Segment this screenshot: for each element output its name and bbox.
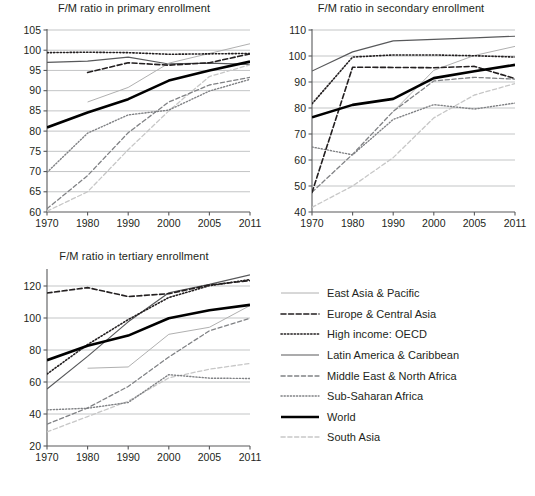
legend-swatch-middle_east_north_africa bbox=[280, 370, 320, 382]
series-line-middle_east_north_africa bbox=[47, 77, 250, 208]
plot-secondary: 4050607080901001101970198019902000200520… bbox=[267, 0, 535, 248]
legend-label-world: World bbox=[327, 411, 356, 423]
legend-item-south_asia[interactable]: South Asia bbox=[280, 427, 530, 448]
svg-text:1990: 1990 bbox=[382, 217, 406, 229]
series-line-sub_saharan_africa bbox=[47, 375, 250, 410]
plot-primary: 6065707580859095100105197019801990200020… bbox=[0, 0, 268, 248]
legend-item-east_asia_pacific[interactable]: East Asia & Pacific bbox=[280, 283, 530, 304]
series-line-east_asia_pacific bbox=[88, 44, 250, 102]
legend-item-middle_east_north_africa[interactable]: Middle East & North Africa bbox=[280, 365, 530, 386]
svg-text:120: 120 bbox=[23, 280, 41, 292]
svg-text:2000: 2000 bbox=[157, 217, 181, 229]
series-legend: East Asia & PacificEurope & Central Asia… bbox=[280, 283, 530, 453]
legend-label-high_income_oecd: High income: OECD bbox=[327, 328, 427, 340]
svg-text:2011: 2011 bbox=[504, 217, 527, 229]
svg-text:80: 80 bbox=[29, 125, 41, 137]
svg-text:95: 95 bbox=[29, 64, 41, 76]
chart-panel-secondary: F/M ratio in secondary enrollment 405060… bbox=[267, 0, 535, 248]
svg-text:60: 60 bbox=[294, 154, 306, 166]
chart-panel-tertiary: F/M ratio in tertiary enrollment 2040608… bbox=[0, 248, 268, 496]
series-line-europe_central_asia bbox=[312, 66, 515, 192]
series-line-latin_america_caribbean bbox=[47, 275, 250, 389]
svg-text:1980: 1980 bbox=[76, 451, 100, 463]
svg-text:80: 80 bbox=[29, 344, 41, 356]
legend-item-high_income_oecd[interactable]: High income: OECD bbox=[280, 324, 530, 345]
figure-root: F/M ratio in primary enrollment 60657075… bbox=[0, 0, 535, 496]
legend-item-sub_saharan_africa[interactable]: Sub-Saharan Africa bbox=[280, 386, 530, 407]
legend-swatch-south_asia bbox=[280, 431, 320, 443]
series-line-middle_east_north_africa bbox=[312, 77, 515, 192]
series-line-south_asia bbox=[312, 84, 515, 208]
svg-text:60: 60 bbox=[29, 376, 41, 388]
series-line-sub_saharan_africa bbox=[312, 103, 515, 155]
legend-swatch-east_asia_pacific bbox=[280, 287, 320, 299]
legend-label-south_asia: South Asia bbox=[327, 431, 380, 443]
series-line-south_asia bbox=[47, 363, 250, 431]
svg-text:40: 40 bbox=[29, 408, 41, 420]
svg-text:100: 100 bbox=[23, 312, 41, 324]
svg-text:2011: 2011 bbox=[239, 451, 262, 463]
svg-text:105: 105 bbox=[23, 24, 41, 36]
svg-text:85: 85 bbox=[29, 104, 41, 116]
legend-item-europe_central_asia[interactable]: Europe & Central Asia bbox=[280, 304, 530, 325]
legend-item-latin_america_caribbean[interactable]: Latin America & Caribbean bbox=[280, 345, 530, 366]
svg-text:90: 90 bbox=[294, 76, 306, 88]
svg-text:20: 20 bbox=[29, 440, 41, 452]
svg-text:80: 80 bbox=[294, 102, 306, 114]
svg-text:40: 40 bbox=[294, 206, 306, 218]
svg-text:2000: 2000 bbox=[422, 217, 446, 229]
chart-panel-primary: F/M ratio in primary enrollment 60657075… bbox=[0, 0, 268, 248]
legend-swatch-latin_america_caribbean bbox=[280, 349, 320, 361]
series-line-high_income_oecd bbox=[47, 52, 250, 54]
svg-text:2011: 2011 bbox=[239, 217, 262, 229]
svg-text:70: 70 bbox=[29, 165, 41, 177]
legend-swatch-world bbox=[280, 411, 320, 423]
svg-text:2005: 2005 bbox=[198, 217, 222, 229]
svg-text:100: 100 bbox=[288, 50, 306, 62]
svg-text:1990: 1990 bbox=[117, 451, 141, 463]
svg-text:110: 110 bbox=[289, 24, 306, 36]
legend-label-europe_central_asia: Europe & Central Asia bbox=[327, 308, 436, 320]
plot-tertiary: 20406080100120197019801990200020052011 bbox=[0, 248, 268, 496]
legend-item-world[interactable]: World bbox=[280, 407, 530, 428]
svg-text:1970: 1970 bbox=[35, 217, 59, 229]
svg-text:100: 100 bbox=[23, 44, 41, 56]
svg-text:50: 50 bbox=[294, 180, 306, 192]
svg-text:1970: 1970 bbox=[300, 217, 324, 229]
svg-text:1980: 1980 bbox=[76, 217, 100, 229]
svg-text:65: 65 bbox=[29, 185, 41, 197]
svg-text:1970: 1970 bbox=[35, 451, 59, 463]
legend-swatch-sub_saharan_africa bbox=[280, 390, 320, 402]
legend-swatch-high_income_oecd bbox=[280, 328, 320, 340]
legend-label-latin_america_caribbean: Latin America & Caribbean bbox=[327, 349, 459, 361]
legend-label-east_asia_pacific: East Asia & Pacific bbox=[327, 287, 420, 299]
series-line-europe_central_asia bbox=[47, 281, 250, 297]
svg-text:60: 60 bbox=[29, 206, 41, 218]
series-line-south_asia bbox=[47, 65, 250, 211]
svg-text:1980: 1980 bbox=[341, 217, 365, 229]
svg-text:70: 70 bbox=[294, 128, 306, 140]
legend-swatch-europe_central_asia bbox=[280, 308, 320, 320]
svg-text:75: 75 bbox=[29, 145, 41, 157]
svg-text:2005: 2005 bbox=[463, 217, 487, 229]
svg-text:2000: 2000 bbox=[157, 451, 181, 463]
legend-label-middle_east_north_africa: Middle East & North Africa bbox=[327, 370, 457, 382]
svg-text:2005: 2005 bbox=[198, 451, 222, 463]
svg-text:90: 90 bbox=[29, 84, 41, 96]
series-line-east_asia_pacific bbox=[88, 306, 250, 369]
svg-text:1990: 1990 bbox=[117, 217, 141, 229]
legend-label-sub_saharan_africa: Sub-Saharan Africa bbox=[327, 390, 423, 402]
series-line-sub_saharan_africa bbox=[47, 79, 250, 172]
